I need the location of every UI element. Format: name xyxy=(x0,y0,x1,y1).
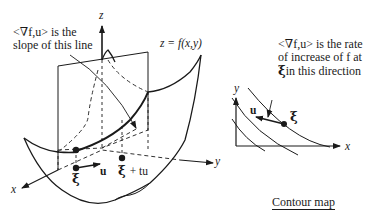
surface-boundary xyxy=(24,55,201,203)
slope-annotation: <∇f,u> is the slope of this line xyxy=(13,26,93,52)
rate-annotation-line-3-text: in this direction xyxy=(286,64,361,78)
z-axis-label: z xyxy=(99,10,103,22)
point-xi-plus-tu xyxy=(119,155,125,161)
y-axis-3d xyxy=(180,160,213,163)
xi-label-3d: ξ xyxy=(72,172,80,185)
u-label-contour: u xyxy=(250,105,256,117)
contour-map-caption: Contour map xyxy=(272,196,335,210)
u-vector-contour xyxy=(256,117,284,124)
x-axis-label-3d: x xyxy=(11,184,16,196)
surface-equation-label: z = f(x,y) xyxy=(160,38,202,50)
u-vector-3d xyxy=(76,164,100,168)
directional-derivative-diagram: <∇f,u> is the slope of this line z z = f… xyxy=(0,0,383,220)
x-axis-label-contour: x xyxy=(345,141,350,153)
plus-tu-text: + tu xyxy=(130,165,148,177)
rate-annotation-line-3: ξin this direction xyxy=(278,64,363,78)
x-axis-3d xyxy=(22,170,58,188)
rate-annotation: <∇f,u> is the rate of increase of f at ξ… xyxy=(278,38,363,78)
xi-plus-symbol: ξ xyxy=(118,163,126,178)
point-xi-contour xyxy=(281,121,287,127)
intersection-curve xyxy=(76,92,148,151)
xi-plus-tu-label: ξ + tu xyxy=(118,162,148,178)
y-axis-label-3d: y xyxy=(215,156,220,168)
xi-label-contour: ξ xyxy=(290,110,298,123)
rate-xi-symbol: ξ xyxy=(278,63,286,78)
y-axis-label-contour: y xyxy=(234,83,239,95)
contour-map xyxy=(232,88,340,155)
rate-annotation-line-2: of increase of f at xyxy=(278,51,363,64)
slope-annotation-line-2: slope of this line xyxy=(13,39,93,52)
u-label-3d: u xyxy=(100,166,106,178)
